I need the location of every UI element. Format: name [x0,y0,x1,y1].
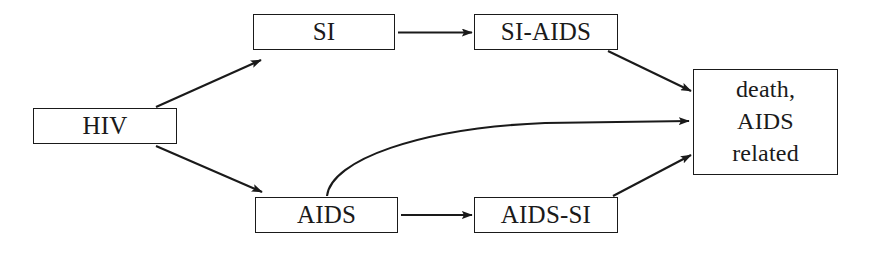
edge-hiv-to-si [156,60,261,107]
node-si-aids-label: SI-AIDS [501,17,591,47]
node-aids-label: AIDS [297,200,356,230]
node-si-label: SI [313,17,336,47]
node-death-aids-related[interactable]: death, AIDS related [693,69,838,175]
node-aids[interactable]: AIDS [255,197,398,233]
edge-hiv-to-aids [156,146,262,192]
edge-aids-to-death-curved [327,121,689,196]
node-si-aids[interactable]: SI-AIDS [474,14,618,50]
edge-si-aids-to-death [608,51,691,91]
node-si[interactable]: SI [253,14,395,50]
node-hiv[interactable]: HIV [33,108,177,144]
node-hiv-label: HIV [82,111,127,141]
node-death-aids-related-label: death, AIDS related [732,74,799,169]
node-aids-si-label: AIDS-SI [501,200,591,230]
node-aids-si[interactable]: AIDS-SI [474,197,618,233]
edge-aids-si-to-death [613,155,691,196]
state-transition-diagram: HIV SI SI-AIDS AIDS AIDS-SI death, AIDS … [0,0,870,254]
